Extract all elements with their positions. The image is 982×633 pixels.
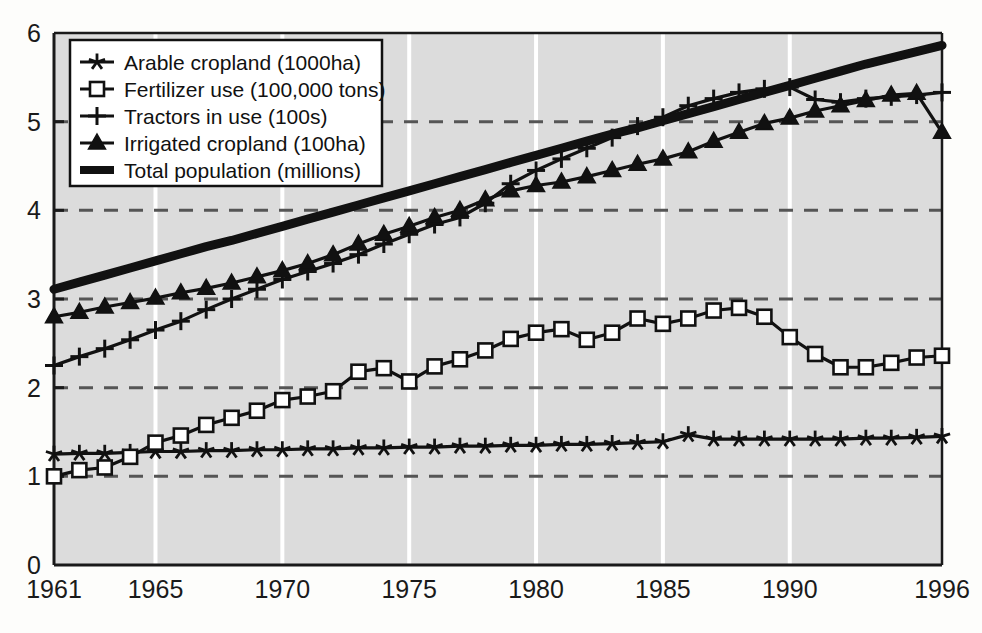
data-point-open-square [90, 82, 104, 96]
x-axis-tick-label: 1975 [381, 575, 437, 603]
data-point-open-square [732, 301, 746, 315]
data-point-open-square [631, 312, 645, 326]
data-point-open-square [123, 450, 137, 464]
x-axis-tick-label: 1985 [635, 575, 691, 603]
data-point-open-square [47, 469, 61, 483]
data-point-open-square [783, 330, 797, 344]
legend-item-1[interactable]: Fertilizer use (100,000 tons) [80, 78, 385, 101]
data-point-open-square [834, 360, 848, 374]
data-point-open-square [529, 326, 543, 340]
data-point-open-square [326, 384, 340, 398]
data-point-open-square [275, 393, 289, 407]
legend-item-label: Total population (millions) [124, 159, 361, 182]
x-axis-tick-label: 1996 [914, 575, 970, 603]
data-point-open-square [402, 374, 416, 388]
x-axis-tick-label: 1980 [508, 575, 564, 603]
data-point-open-square [656, 317, 670, 331]
data-point-open-square [478, 343, 492, 357]
y-axis-tick-label: 4 [27, 196, 41, 224]
data-point-open-square [199, 418, 213, 432]
x-axis-tick-label: 1965 [128, 575, 184, 603]
y-axis-tick-label: 1 [27, 462, 41, 490]
y-axis-tick-label: 6 [27, 19, 41, 47]
data-point-open-square [707, 304, 721, 318]
legend-item-label: Arable cropland (1000ha) [124, 51, 361, 74]
data-point-open-square [174, 429, 188, 443]
legend-item-label: Irrigated cropland (100ha) [124, 132, 366, 155]
data-point-open-square [225, 411, 239, 425]
data-point-open-square [428, 359, 442, 373]
data-point-open-square [554, 322, 568, 336]
data-point-open-square [377, 361, 391, 375]
data-point-open-square [681, 312, 695, 326]
x-axis-tick-label: 1961 [26, 575, 82, 603]
chart-root: 6543210 19611965197019751980198519901996… [0, 0, 982, 633]
data-point-open-square [453, 352, 467, 366]
data-point-open-square [757, 310, 771, 324]
data-point-open-square [910, 351, 924, 365]
data-point-open-square [351, 365, 365, 379]
y-axis-tick-label: 5 [27, 108, 41, 136]
data-point-open-square [72, 463, 86, 477]
data-point-open-square [605, 326, 619, 340]
y-axis-tick-label: 3 [27, 285, 41, 313]
line-chart: 6543210 19611965197019751980198519901996… [0, 0, 982, 633]
data-point-open-square [301, 390, 315, 404]
data-point-open-square [859, 360, 873, 374]
data-point-open-square [884, 356, 898, 370]
data-point-open-square [935, 349, 949, 363]
data-point-open-square [148, 436, 162, 450]
data-point-open-square [580, 333, 594, 347]
x-axis-tick-label: 1990 [762, 575, 818, 603]
data-point-open-square [250, 404, 264, 418]
legend-item-label: Fertilizer use (100,000 tons) [124, 78, 385, 101]
data-point-open-square [504, 332, 518, 346]
x-axis-tick-label: 1970 [255, 575, 311, 603]
legend-item-label: Tractors in use (100s) [124, 105, 327, 128]
data-point-open-square [98, 460, 112, 474]
y-axis-tick-label: 2 [27, 374, 41, 402]
data-point-open-square [808, 347, 822, 361]
chart-legend: Arable cropland (1000ha)Fertilizer use (… [70, 40, 385, 186]
